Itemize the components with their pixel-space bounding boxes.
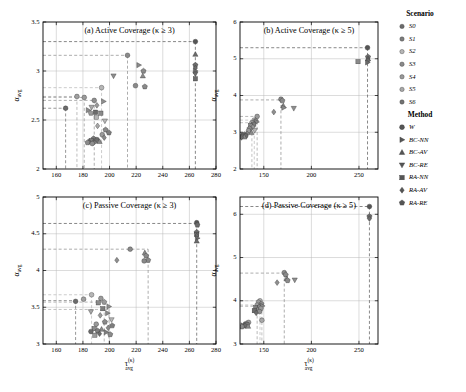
legend-item-scenario-s6[interactable]: S6	[400, 98, 416, 105]
x-axis-label-c: τ(κ)avg	[125, 357, 135, 370]
datapoint	[133, 83, 138, 88]
datapoint	[142, 84, 147, 89]
datapoint	[102, 319, 107, 324]
y-axis-label-a: αavg	[12, 89, 22, 101]
datapoint	[89, 292, 94, 297]
legend-item-method-w[interactable]: W	[400, 123, 415, 130]
ytick-label: 4	[233, 296, 237, 303]
datapoint	[99, 296, 104, 301]
datapoint	[101, 307, 105, 311]
ytick-label: 5	[233, 253, 237, 260]
guidelines-c	[43, 223, 197, 344]
datapoint	[98, 312, 102, 318]
datapoint	[81, 297, 86, 302]
legend-label-s3: S3	[409, 60, 416, 67]
legend-item-scenario-s0[interactable]: S0	[400, 22, 416, 29]
legend-marker-ra-re	[399, 200, 404, 205]
datapoints-d	[239, 204, 372, 329]
datapoint	[95, 123, 99, 129]
datapoint	[73, 299, 78, 304]
legend-item-method-ra-nn[interactable]: RA-NN	[400, 173, 429, 180]
legend-item-scenario-s3[interactable]: S3	[400, 60, 416, 67]
ytick-label: 5	[36, 193, 40, 200]
plot-frame-a	[43, 22, 216, 169]
legend-label-ra-av: RA-AV	[408, 186, 428, 193]
datapoint	[96, 301, 100, 305]
legend-item-scenario-s4[interactable]: S4	[400, 73, 416, 80]
legend-label-s4: S4	[409, 73, 416, 80]
ytick-label: 3.5	[31, 18, 40, 25]
datapoint	[95, 102, 99, 108]
datapoint	[260, 318, 265, 323]
legend-marker-ra-av	[400, 187, 404, 193]
datapoint	[272, 109, 276, 115]
xtick-label: 220	[131, 346, 142, 353]
y-axis-label-c: αavg	[12, 264, 22, 276]
legend-label-w: W	[409, 123, 415, 130]
legend-item-method-bc-nn[interactable]: BC-NN	[400, 136, 429, 143]
panel-a: 16018020022024026028022.533.5(a) Active …	[12, 18, 222, 179]
legend-label-ra-nn: RA-NN	[408, 173, 429, 180]
legend-item-scenario-s1[interactable]: S1	[400, 35, 416, 42]
gridlines-b	[240, 22, 378, 169]
datapoint	[89, 329, 94, 334]
legend-label-s2: S2	[409, 47, 416, 54]
datapoint	[82, 95, 87, 100]
xtick-label: 200	[306, 171, 317, 178]
legend-label-ra-re: RA-RE	[408, 199, 427, 206]
datapoints-a	[63, 39, 198, 146]
legend-item-method-ra-av[interactable]: RA-AV	[400, 186, 428, 193]
datapoint	[193, 52, 198, 57]
panel-b: 15020025023456(b) Active Coverage (κ ≥ 5…	[209, 18, 378, 179]
legend-marker-s4	[400, 75, 404, 79]
datapoints-c	[73, 220, 200, 337]
legend-marker-s6	[400, 100, 404, 104]
ytick-label: 4	[233, 91, 237, 98]
datapoint	[99, 85, 104, 90]
ytick-label: 5	[233, 54, 237, 61]
legend-item-scenario-s2[interactable]: S2	[400, 47, 416, 54]
datapoint	[292, 278, 297, 283]
datapoint	[94, 115, 98, 119]
ytick-label: 3	[233, 340, 237, 347]
datapoint	[90, 141, 95, 146]
datapoint	[63, 106, 68, 111]
panel-title-a: (a) Active Coverage (κ ≥ 3)	[84, 26, 175, 35]
legend-marker-ra-nn	[400, 175, 404, 179]
xtick-label: 240	[158, 171, 169, 178]
panel-title-d: (d) Passive Coverage (κ ≥ 5)	[262, 201, 356, 210]
legend-title-scenario: Scenario	[406, 9, 434, 18]
xtick-label: 220	[131, 171, 142, 178]
ytick-label: 2	[36, 165, 39, 172]
datapoint	[102, 99, 107, 104]
datapoint	[193, 39, 198, 44]
xtick-label: 180	[78, 171, 89, 178]
datapoints-b	[239, 45, 370, 140]
datapoint	[137, 62, 142, 67]
legend-item-method-bc-re[interactable]: BC-RE	[399, 161, 427, 168]
figure-root: 16018020022024026028022.533.5(a) Active …	[0, 0, 466, 392]
datapoint	[92, 98, 97, 103]
xtick-label: 160	[51, 346, 62, 353]
panel-title-b: (b) Active Coverage (κ ≥ 5)	[264, 26, 355, 35]
ytick-label: 4.5	[31, 229, 40, 236]
ytick-label: 2.5	[31, 116, 40, 123]
legend-label-s6: S6	[409, 98, 416, 105]
legend-item-method-ra-re[interactable]: RA-RE	[399, 199, 427, 206]
legend-label-bc-nn: BC-NN	[409, 136, 429, 143]
xtick-label: 200	[105, 171, 116, 178]
legend-marker-s1	[400, 37, 404, 41]
datapoint	[291, 106, 296, 111]
legend-label-bc-re: BC-RE	[409, 161, 428, 168]
datapoint	[125, 53, 130, 58]
xtick-label: 200	[105, 346, 116, 353]
guidelines-b	[240, 48, 368, 169]
legend-item-scenario-s5[interactable]: S5	[400, 85, 416, 92]
legend-item-method-bc-av[interactable]: BC-AV	[399, 148, 428, 155]
ytick-label: 3	[36, 67, 40, 74]
legend-marker-bc-nn	[400, 137, 405, 142]
datapoint	[88, 310, 93, 315]
datapoint	[356, 60, 360, 64]
xtick-label: 260	[184, 346, 195, 353]
datapoint	[110, 323, 115, 328]
